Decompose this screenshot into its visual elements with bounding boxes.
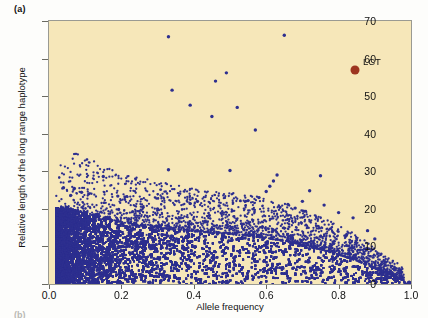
x-tick-label: 0.0 — [29, 289, 69, 301]
y-tick-label: 70 — [350, 15, 376, 27]
x-tick-label: 0.4 — [174, 289, 214, 301]
y-tick-mark — [42, 59, 48, 60]
next-panel-label: (b) — [14, 311, 26, 318]
y-axis-title: Relative length of the long range haplot… — [16, 33, 27, 283]
x-tick-mark — [411, 285, 412, 289]
x-tick-label: 0.8 — [319, 289, 359, 301]
x-tick-mark — [339, 285, 340, 289]
x-tick-label: 1.0 — [391, 289, 428, 301]
x-tick-mark — [194, 285, 195, 289]
x-tick-label: 0.6 — [246, 289, 286, 301]
x-axis-title: Allele frequency — [48, 301, 412, 312]
lct-data-point — [350, 65, 359, 74]
x-tick-mark — [121, 285, 122, 289]
y-tick-label: 10 — [350, 240, 376, 252]
y-tick-mark — [42, 134, 48, 135]
x-tick-mark — [266, 285, 267, 289]
y-tick-label: 60 — [350, 53, 376, 65]
y-tick-label: 30 — [350, 165, 376, 177]
x-tick-mark — [49, 285, 50, 289]
y-tick-mark — [42, 96, 48, 97]
x-tick-label: 0.2 — [101, 289, 141, 301]
y-tick-mark — [42, 284, 48, 285]
y-tick-label: 40 — [350, 128, 376, 140]
y-tick-mark — [42, 171, 48, 172]
y-tick-label: 20 — [350, 203, 376, 215]
y-tick-label: 50 — [350, 90, 376, 102]
y-tick-mark — [42, 246, 48, 247]
figure-panel-a: (a) Relative length of the long range ha… — [0, 0, 428, 318]
y-tick-mark — [42, 209, 48, 210]
y-tick-mark — [42, 21, 48, 22]
